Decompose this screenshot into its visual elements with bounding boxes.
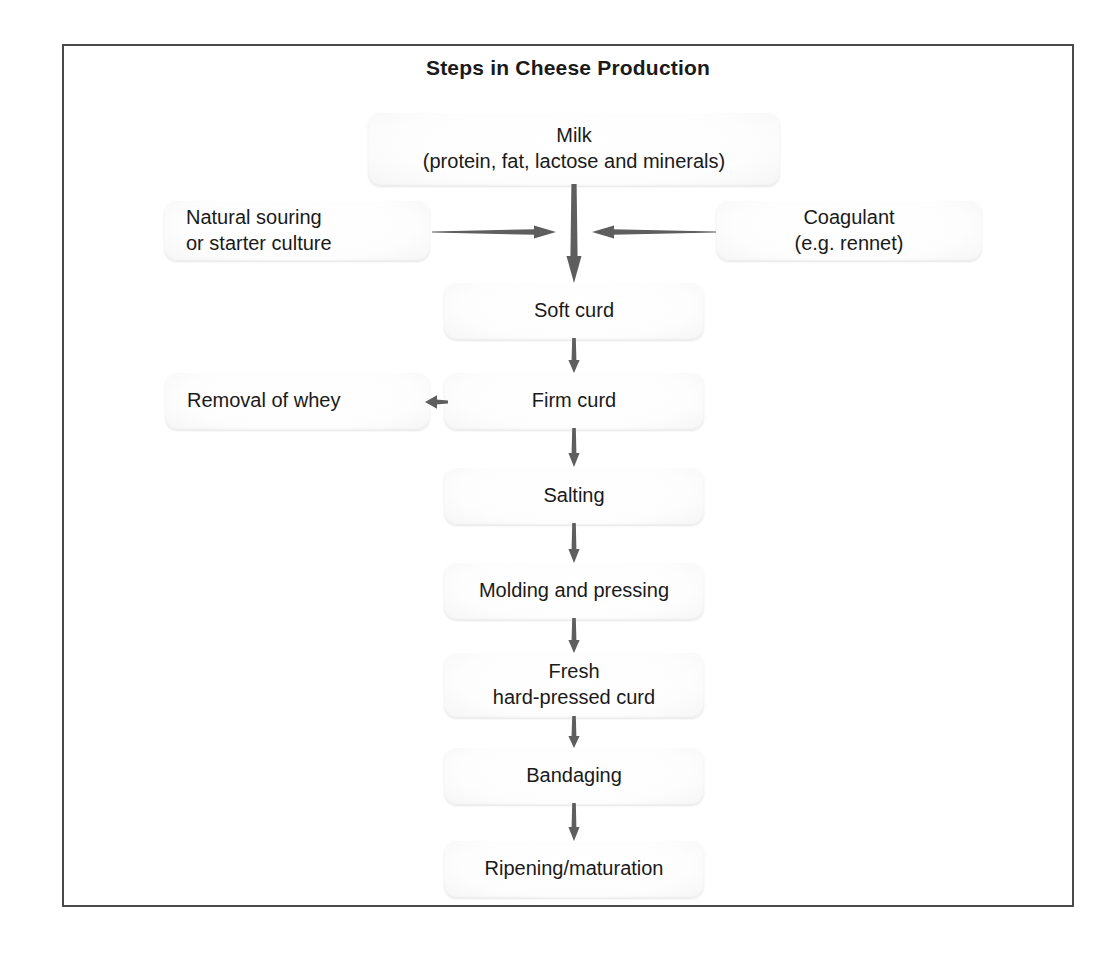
node-natural-souring-label: Natural souring or starter culture bbox=[186, 205, 332, 256]
arrow-firm-curd-to-removal-of-whey bbox=[424, 392, 448, 412]
node-salting: Salting bbox=[444, 467, 704, 525]
node-molding-and-pressing-label: Molding and pressing bbox=[444, 578, 704, 604]
node-coagulant-label: Coagulant (e.g. rennet) bbox=[716, 205, 982, 256]
node-molding-and-pressing: Molding and pressing bbox=[444, 562, 704, 620]
node-milk-label: Milk (protein, fat, lactose and minerals… bbox=[368, 123, 780, 174]
arrow-bandaging-to-ripening bbox=[564, 803, 584, 842]
node-natural-souring: Natural souring or starter culture bbox=[164, 200, 430, 261]
node-coagulant: Coagulant (e.g. rennet) bbox=[716, 200, 982, 261]
arrow-firm-curd-to-salting bbox=[564, 428, 584, 468]
node-salting-label: Salting bbox=[444, 483, 704, 509]
page-title: Steps in Cheese Production bbox=[64, 56, 1072, 80]
node-ripening-maturation-label: Ripening/maturation bbox=[444, 856, 704, 882]
arrow-soft-curd-to-firm-curd bbox=[564, 338, 584, 374]
node-firm-curd: Firm curd bbox=[444, 372, 704, 430]
arrow-fresh-curd-to-bandaging bbox=[564, 716, 584, 749]
node-milk: Milk (protein, fat, lactose and minerals… bbox=[368, 112, 780, 186]
node-bandaging-label: Bandaging bbox=[444, 763, 704, 789]
arrow-milk-to-soft-curd bbox=[562, 184, 586, 284]
node-removal-of-whey: Removal of whey bbox=[165, 372, 430, 430]
arrow-salting-to-molding bbox=[564, 523, 584, 564]
node-soft-curd-label: Soft curd bbox=[444, 298, 704, 324]
arrow-coagulant-to-junction bbox=[590, 222, 716, 242]
node-bandaging: Bandaging bbox=[444, 747, 704, 805]
node-soft-curd: Soft curd bbox=[444, 282, 704, 340]
node-removal-of-whey-label: Removal of whey bbox=[187, 388, 340, 414]
node-fresh-hard-pressed-curd-label: Fresh hard-pressed curd bbox=[444, 659, 704, 710]
arrow-molding-to-fresh-curd bbox=[564, 618, 584, 654]
node-firm-curd-label: Firm curd bbox=[444, 388, 704, 414]
diagram-frame: Steps in Cheese Production Milk (protein… bbox=[62, 44, 1074, 907]
node-fresh-hard-pressed-curd: Fresh hard-pressed curd bbox=[444, 652, 704, 718]
node-ripening-maturation: Ripening/maturation bbox=[444, 840, 704, 898]
arrow-souring-to-junction bbox=[432, 222, 558, 242]
